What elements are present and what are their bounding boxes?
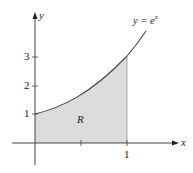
y-tick-label-3: 3 — [24, 51, 30, 62]
y-axis-arrow-icon — [33, 12, 38, 19]
curve-label: y = ex — [133, 14, 158, 26]
x-axis-arrow-icon — [172, 141, 179, 146]
x-axis-label: x — [181, 137, 186, 148]
region-label: R — [77, 114, 84, 125]
x-tick-label-1: 1 — [124, 149, 130, 160]
y-tick-label-2: 2 — [24, 80, 30, 91]
y-axis-label: y — [39, 10, 44, 21]
y-tick-label-1: 1 — [24, 108, 30, 119]
